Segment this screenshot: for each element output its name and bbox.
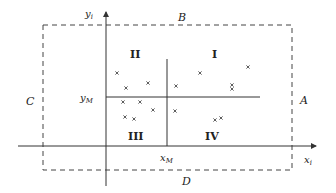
quadrant-label-I: I <box>212 48 217 61</box>
cross-point-icon <box>230 83 233 86</box>
cross-point-icon <box>146 81 149 84</box>
region-label-left: C <box>26 95 35 108</box>
quadrant-label-II: II <box>130 48 140 61</box>
data-points <box>115 65 249 121</box>
quadrant-diagram: B A C D yi xi yM xM II I III IV <box>0 0 336 193</box>
y-axis-label: yi <box>84 8 93 21</box>
cross-point-icon <box>230 87 233 90</box>
y-median-label: yM <box>79 92 94 105</box>
cross-point-icon <box>115 71 118 74</box>
cross-point-icon <box>138 100 141 103</box>
cross-point-icon <box>124 86 127 89</box>
x-axis-label-sub: i <box>310 159 312 167</box>
region-label-bottom: D <box>181 175 191 188</box>
x-median-label: xM <box>160 152 174 165</box>
cross-point-icon <box>123 115 126 118</box>
x-median-label-sub: M <box>165 157 174 165</box>
quadrant-label-IV: IV <box>205 130 219 143</box>
cross-point-icon <box>173 109 176 112</box>
cross-point-icon <box>151 108 154 111</box>
cross-point-icon <box>132 117 135 120</box>
cross-point-icon <box>213 118 216 121</box>
cross-point-icon <box>121 100 124 103</box>
region-label-right: A <box>299 94 308 107</box>
cross-point-icon <box>174 84 177 87</box>
cross-point-icon <box>246 65 249 68</box>
y-median-label-sub: M <box>85 97 94 105</box>
region-label-top: B <box>177 11 186 24</box>
x-axis-label: xi <box>304 154 312 167</box>
y-axis-label-sub: i <box>91 13 93 21</box>
cross-point-icon <box>198 71 201 74</box>
quadrant-label-III: III <box>128 130 143 143</box>
cross-point-icon <box>219 116 222 119</box>
